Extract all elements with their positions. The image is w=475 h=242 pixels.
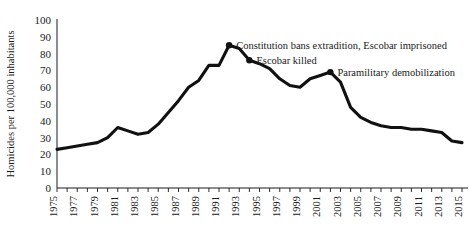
y-tick-label: 40 xyxy=(40,115,52,127)
x-tick-label: 2007 xyxy=(372,196,383,217)
annotation-label: Constitution bans extradition, Escobar i… xyxy=(236,40,448,51)
x-tick-label: 1997 xyxy=(271,196,282,217)
x-tick-label: 1993 xyxy=(230,196,241,217)
y-axis-ticks: 1009080706050403020100 xyxy=(35,14,52,194)
x-tick-label: 1977 xyxy=(68,196,79,217)
x-tick-label: 1975 xyxy=(48,196,59,217)
x-tick-label: 1985 xyxy=(149,196,160,217)
y-tick-label: 60 xyxy=(40,81,52,93)
x-tick-label: 2003 xyxy=(332,196,343,217)
y-tick-label: 70 xyxy=(40,64,52,76)
x-tick-label: 1989 xyxy=(190,196,201,217)
y-axis-title: Homicides per 100,000 inhabitants xyxy=(5,31,16,178)
y-tick-label: 10 xyxy=(40,165,52,177)
y-tick-label: 100 xyxy=(35,14,52,26)
x-tick-label: 1987 xyxy=(170,196,181,217)
annotation-marker-dot xyxy=(226,42,232,48)
y-tick-label: 50 xyxy=(40,98,52,110)
annotation-label: Paramilitary demobilization xyxy=(337,67,455,78)
x-tick-label: 1979 xyxy=(89,196,100,217)
x-tick-label: 1983 xyxy=(129,196,140,217)
x-tick-label: 2001 xyxy=(311,196,322,217)
homicide-rate-chart: Homicides per 100,000 inhabitants1009080… xyxy=(0,0,475,242)
x-tick-label: 2009 xyxy=(392,196,403,217)
y-tick-label: 90 xyxy=(40,31,52,43)
chart-annotation: Paramilitary demobilization xyxy=(327,67,455,78)
y-tick-label: 0 xyxy=(46,182,52,194)
x-tick-label: 1999 xyxy=(291,196,302,217)
x-axis-ticks: 1975197719791981198319851987198919911993… xyxy=(48,188,464,217)
chart-annotation: Escobar killed xyxy=(246,55,317,66)
x-tick-label: 2013 xyxy=(433,196,444,217)
annotation-marker-dot xyxy=(327,69,333,75)
x-tick-label: 1995 xyxy=(251,196,262,217)
x-tick-label: 1981 xyxy=(109,196,120,217)
y-tick-label: 80 xyxy=(40,48,52,60)
annotation-label: Escobar killed xyxy=(256,55,317,66)
x-tick-label: 2005 xyxy=(352,196,363,217)
y-tick-label: 30 xyxy=(40,132,52,144)
chart-annotation: Constitution bans extradition, Escobar i… xyxy=(226,40,448,51)
x-tick-label: 2011 xyxy=(413,196,424,217)
annotation-marker-dot xyxy=(246,57,252,63)
y-tick-label: 20 xyxy=(40,148,52,160)
x-tick-label: 2015 xyxy=(453,196,464,217)
chart-canvas: Homicides per 100,000 inhabitants1009080… xyxy=(0,0,475,242)
x-tick-label: 1991 xyxy=(210,196,221,217)
